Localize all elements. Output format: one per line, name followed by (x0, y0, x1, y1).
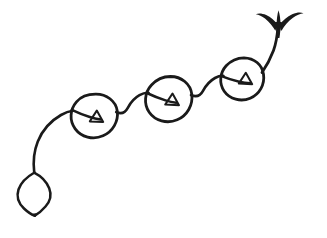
vine-sketch-illustration (0, 0, 327, 238)
sketch-canvas: Hand-drawn vine sketch ink line drawing (0, 0, 327, 238)
